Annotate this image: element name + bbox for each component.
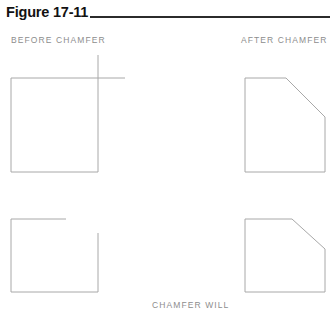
title-divider-rule bbox=[90, 16, 330, 18]
page-title: Figure 17-11 bbox=[6, 3, 88, 21]
chamfered-square-outline bbox=[245, 78, 325, 172]
panel-bottom-right-after bbox=[245, 219, 325, 292]
label-after-chamfer: AFTER CHAMFER bbox=[241, 35, 328, 46]
figure-container: Figure 17-11 BEFORE CHAMFER AFTER CHAMFE… bbox=[0, 0, 336, 312]
figure-title-row: Figure 17-11 bbox=[0, 3, 336, 25]
label-chamfer-will: CHAMFER WILL bbox=[152, 300, 229, 311]
chamfered-square-outline bbox=[245, 219, 325, 292]
panel-bottom-left-before bbox=[11, 219, 98, 292]
panel-top-left-before bbox=[11, 55, 125, 172]
panel-top-right-after bbox=[245, 78, 325, 172]
chamfer-line-drawings bbox=[0, 0, 336, 312]
label-before-chamfer: BEFORE CHAMFER bbox=[11, 35, 106, 46]
